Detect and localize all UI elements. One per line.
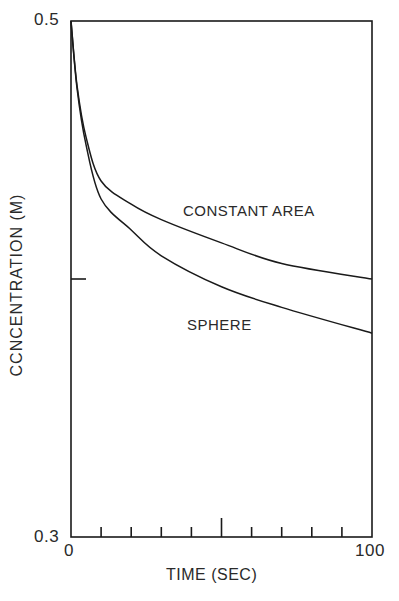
plot-frame bbox=[71, 21, 372, 537]
chart-plot bbox=[0, 0, 399, 601]
x-tick-label-right: 100 bbox=[355, 541, 385, 561]
curve-constant-area bbox=[71, 21, 372, 279]
data-curves bbox=[71, 21, 372, 333]
x-axis-label: TIME (SEC) bbox=[166, 566, 257, 584]
curve-sphere bbox=[71, 21, 372, 333]
y-axis-label: CCNCENTRATION (M) bbox=[8, 194, 26, 377]
y-tick-label-top: 0.5 bbox=[34, 10, 59, 30]
x-tick-label-left: 0 bbox=[64, 541, 74, 561]
series-label-sphere: SPHERE bbox=[187, 316, 252, 333]
y-tick-label-bottom: 0.3 bbox=[34, 527, 59, 547]
series-label-constant-area: CONSTANT AREA bbox=[183, 202, 315, 219]
